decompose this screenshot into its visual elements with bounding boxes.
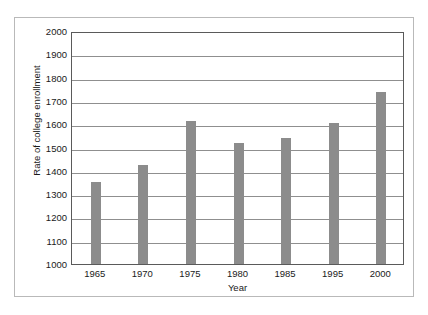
y-tick-label: 1900 bbox=[46, 50, 67, 60]
y-tick-label: 1800 bbox=[46, 74, 67, 84]
chart-figure: Rate of college enrollment 2000190018001… bbox=[14, 17, 414, 297]
x-tick-label: 1975 bbox=[167, 268, 213, 279]
bar bbox=[234, 143, 244, 264]
y-tick-label: 1600 bbox=[46, 120, 67, 130]
y-tick-label: 1500 bbox=[46, 144, 67, 154]
bar bbox=[186, 121, 196, 264]
bar bbox=[281, 138, 291, 264]
gridline bbox=[72, 103, 403, 104]
bar bbox=[329, 123, 339, 264]
x-tick-label: 1970 bbox=[119, 268, 165, 279]
x-tick-label: 2000 bbox=[357, 268, 403, 279]
y-tick-label: 1300 bbox=[46, 190, 67, 200]
x-tick-label: 1980 bbox=[215, 268, 261, 279]
x-tick-label: 1985 bbox=[262, 268, 308, 279]
y-tick-label: 1700 bbox=[46, 97, 67, 107]
bar bbox=[138, 165, 148, 264]
x-tick-label: 1995 bbox=[310, 268, 356, 279]
gridline bbox=[72, 56, 403, 57]
x-tick-label: 1965 bbox=[72, 268, 118, 279]
y-tick-label: 1100 bbox=[47, 237, 67, 247]
bar bbox=[91, 182, 101, 264]
gridline bbox=[72, 126, 403, 127]
bar bbox=[376, 92, 386, 264]
y-tick-label: 2000 bbox=[46, 27, 67, 37]
y-axis-tick-labels: 2000190018001700160015001400130012001100… bbox=[25, 32, 67, 265]
gridline bbox=[72, 80, 403, 81]
plot-area bbox=[71, 32, 404, 265]
x-axis-tick-labels: 1965197019751980198519952000 bbox=[71, 268, 404, 282]
y-tick-label: 1400 bbox=[46, 167, 67, 177]
x-axis-title: Year bbox=[71, 282, 404, 293]
y-tick-label: 1000 bbox=[46, 260, 67, 270]
y-tick-label: 1200 bbox=[46, 213, 67, 223]
